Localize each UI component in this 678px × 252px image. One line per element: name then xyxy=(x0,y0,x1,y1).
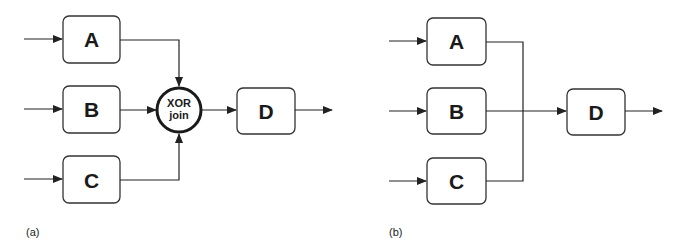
task-label-b: B xyxy=(449,100,464,123)
task-label-d: D xyxy=(588,101,603,124)
panel-caption-b: (b) xyxy=(389,226,402,238)
connector-a-to-join xyxy=(120,40,179,86)
task-box-d: D xyxy=(567,89,625,135)
panel-a: A B C XOR join D (a) xyxy=(24,16,332,238)
xor-join-label-line2: join xyxy=(168,109,189,121)
task-label-c: C xyxy=(84,169,99,192)
task-label-c: C xyxy=(449,170,464,193)
connector-c-to-join xyxy=(120,134,179,180)
task-box-d: D xyxy=(237,88,295,134)
task-box-b: B xyxy=(427,88,486,134)
task-label-a: A xyxy=(449,30,464,53)
xor-join-node: XOR join xyxy=(157,88,201,132)
diagram-canvas: A B C XOR join D (a) xyxy=(0,0,678,252)
task-box-c: C xyxy=(63,156,120,203)
task-label-d: D xyxy=(258,100,273,123)
xor-join-label-line1: XOR xyxy=(167,97,191,109)
task-label-a: A xyxy=(84,28,99,51)
task-label-b: B xyxy=(84,98,99,121)
task-box-a: A xyxy=(427,18,486,65)
task-box-b: B xyxy=(63,86,120,133)
task-box-c: C xyxy=(427,158,486,204)
panel-caption-a: (a) xyxy=(26,226,39,238)
task-box-a: A xyxy=(63,16,120,63)
panel-b: A B C D (b) xyxy=(389,18,662,238)
